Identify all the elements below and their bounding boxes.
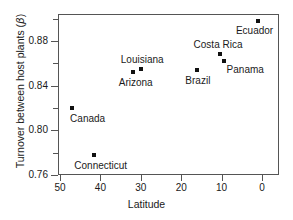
- data-point-label: Ecuador: [236, 26, 273, 36]
- y-tick-major: [51, 41, 58, 42]
- y-tick-major: [51, 175, 58, 176]
- x-tick-major: [100, 175, 101, 181]
- data-point-marker: [222, 59, 226, 63]
- y-axis-title-wrapper: Turnover between host plants (β): [10, 6, 24, 176]
- data-point-marker: [195, 68, 199, 72]
- y-tick-minor: [53, 19, 58, 20]
- y-tick-minor: [53, 63, 58, 64]
- x-tick-major: [141, 175, 142, 181]
- data-point-label: Arizona: [119, 78, 153, 88]
- data-point-label: Louisiana: [121, 55, 164, 65]
- data-point-marker: [218, 52, 222, 56]
- x-axis-title: Latitude: [0, 199, 293, 210]
- data-point-label: Costa Rica: [194, 40, 243, 50]
- x-tick-label: 30: [126, 183, 156, 193]
- y-tick-major: [51, 86, 58, 87]
- y-tick-major: [51, 130, 58, 131]
- x-tick-major: [181, 175, 182, 181]
- y-axis-title-text: Turnover between host plants (: [14, 24, 26, 168]
- data-point-marker: [70, 106, 74, 110]
- x-tick-major: [60, 175, 61, 181]
- data-point-label: Connecticut: [74, 161, 127, 171]
- x-tick-label: 20: [166, 183, 196, 193]
- scatter-plot-figure: 0.760.800.840.88 50403020100 CanadaConne…: [0, 0, 293, 220]
- data-point-marker: [131, 70, 135, 74]
- x-tick-label: 50: [45, 183, 75, 193]
- y-axis-title: Turnover between host plants (β): [14, 14, 26, 169]
- x-tick-label: 0: [247, 183, 277, 193]
- data-point-marker: [139, 67, 143, 71]
- y-axis-title-suffix: ): [14, 14, 26, 18]
- data-point-label: Brazil: [185, 76, 210, 86]
- data-point-marker: [256, 19, 260, 23]
- data-point-label: Panama: [227, 65, 264, 75]
- x-tick-major: [222, 175, 223, 181]
- data-point-label: Canada: [70, 114, 105, 124]
- x-tick-label: 10: [207, 183, 237, 193]
- beta-symbol: β: [14, 17, 26, 24]
- data-point-marker: [92, 153, 96, 157]
- y-tick-minor: [53, 108, 58, 109]
- plot-area-frame: [58, 14, 279, 175]
- x-tick-major: [262, 175, 263, 181]
- y-tick-minor: [53, 153, 58, 154]
- x-tick-label: 40: [85, 183, 115, 193]
